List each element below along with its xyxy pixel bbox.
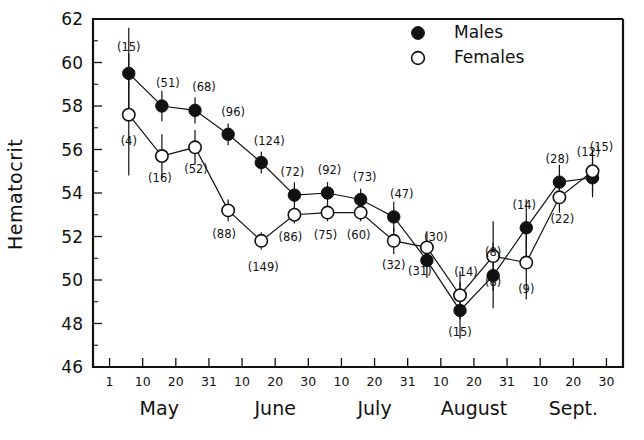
- sample-size-label: (15): [590, 140, 614, 154]
- chart-legend: MalesFemales: [412, 22, 525, 67]
- data-point-female: [222, 204, 234, 216]
- sample-size-label: (14): [512, 198, 536, 212]
- sample-size-label: (30): [424, 230, 448, 244]
- sample-size-label: (88): [212, 227, 236, 241]
- legend-label-males: Males: [454, 22, 503, 42]
- sample-size-label: (28): [546, 152, 570, 166]
- x-tick-label: 10: [433, 374, 449, 389]
- sample-size-label: (15): [448, 325, 472, 339]
- sample-size-label: (22): [551, 212, 575, 226]
- data-point-male: [454, 304, 466, 316]
- sample-size-label: (8): [485, 245, 501, 259]
- data-point-male: [553, 176, 565, 188]
- data-point-male: [354, 193, 366, 205]
- x-tick-label: 31: [201, 374, 217, 389]
- data-point-female: [288, 209, 300, 221]
- sample-size-label: (14): [454, 265, 478, 279]
- data-point-female: [454, 289, 466, 301]
- y-tick-label: 52: [61, 227, 83, 247]
- y-tick-label: 60: [61, 53, 83, 73]
- chart-figure: 4648505254565860621102031102030102031102…: [0, 0, 644, 440]
- data-point-female: [388, 235, 400, 247]
- sample-size-label: (92): [318, 163, 342, 177]
- data-point-female: [123, 109, 135, 121]
- data-point-male: [321, 187, 333, 199]
- sample-size-label: (72): [281, 165, 305, 179]
- x-month-label: July: [356, 397, 391, 419]
- data-point-male: [189, 104, 201, 116]
- x-tick-label: 31: [499, 374, 515, 389]
- y-tick-label: 56: [61, 140, 83, 160]
- data-point-male: [520, 222, 532, 234]
- sample-size-label: (16): [148, 171, 172, 185]
- legend-label-females: Females: [454, 47, 524, 67]
- x-month-label: June: [253, 397, 295, 419]
- sample-size-label: (149): [248, 260, 279, 274]
- sample-size-label: (47): [390, 187, 414, 201]
- sample-size-label: (60): [347, 228, 371, 242]
- data-point-female: [255, 235, 267, 247]
- legend-marker-males: [412, 27, 425, 40]
- data-point-female: [354, 206, 366, 218]
- sample-size-label: (73): [353, 170, 377, 184]
- y-tick-label: 48: [61, 314, 83, 334]
- x-month-label: May: [140, 397, 179, 419]
- x-tick-label: 30: [598, 374, 614, 389]
- sample-size-label: (9): [518, 282, 534, 296]
- y-tick-label: 54: [61, 183, 83, 203]
- x-tick-label: 10: [234, 374, 250, 389]
- x-tick-label: 10: [333, 374, 349, 389]
- sample-size-label: (32): [382, 258, 406, 272]
- data-point-female: [321, 206, 333, 218]
- x-tick-label: 1: [106, 374, 114, 389]
- x-tick-label: 10: [135, 374, 151, 389]
- x-month-label: Sept.: [549, 397, 598, 419]
- x-tick-label: 20: [168, 374, 184, 389]
- data-point-male: [123, 67, 135, 79]
- x-tick-label: 20: [367, 374, 383, 389]
- y-tick-label: 58: [61, 96, 83, 116]
- sample-size-label: (96): [221, 105, 245, 119]
- y-tick-label: 46: [61, 357, 83, 377]
- sample-size-label: (51): [156, 76, 180, 90]
- x-tick-label: 20: [267, 374, 283, 389]
- y-axis-title: Hematocrit: [4, 139, 26, 250]
- data-point-female: [586, 165, 598, 177]
- sample-size-label: (68): [192, 80, 216, 94]
- x-tick-label: 30: [300, 374, 316, 389]
- sample-size-label: (8): [485, 275, 501, 289]
- axis-frame: [93, 19, 623, 367]
- data-point-male: [156, 100, 168, 112]
- sample-size-label: (4): [121, 134, 137, 148]
- data-point-female: [520, 256, 532, 268]
- hematocrit-line-chart: 4648505254565860621102031102030102031102…: [0, 0, 644, 440]
- x-tick-label: 20: [565, 374, 581, 389]
- sample-size-label: (124): [254, 134, 285, 148]
- data-point-male: [388, 211, 400, 223]
- x-month-label: August: [441, 397, 508, 419]
- sample-size-label: (15): [117, 40, 141, 54]
- data-point-male: [255, 156, 267, 168]
- data-point-male: [222, 128, 234, 140]
- sample-size-annotations: (15)(51)(68)(96)(124)(72)(92)(73)(47)(30…: [117, 40, 613, 339]
- y-tick-label: 62: [61, 9, 83, 29]
- legend-marker-females: [412, 52, 425, 65]
- y-tick-label: 50: [61, 270, 83, 290]
- sample-size-label: (31): [408, 264, 432, 278]
- plot-axes: 4648505254565860621102031102030102031102…: [61, 9, 623, 389]
- sample-size-label: (86): [279, 230, 303, 244]
- x-tick-label: 20: [466, 374, 482, 389]
- data-point-female: [189, 141, 201, 153]
- data-point-female: [156, 150, 168, 162]
- sample-size-label: (52): [184, 162, 208, 176]
- x-tick-label: 10: [532, 374, 548, 389]
- sample-size-label: (75): [314, 228, 338, 242]
- data-point-male: [288, 189, 300, 201]
- data-point-female: [553, 191, 565, 203]
- x-tick-label: 31: [400, 374, 416, 389]
